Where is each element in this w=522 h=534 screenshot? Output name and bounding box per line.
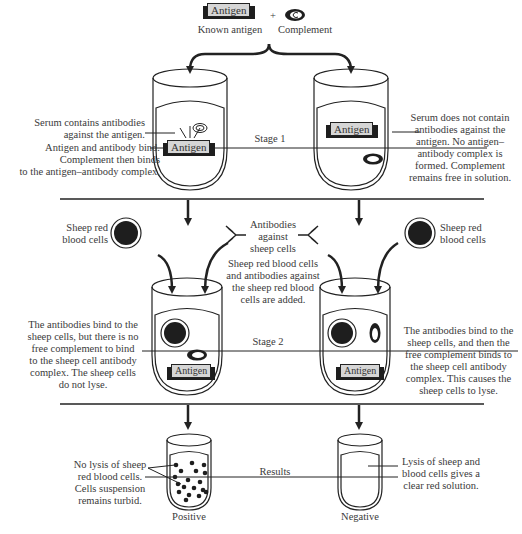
stage2-left-srbc [161, 319, 189, 347]
results-right-note: Lysis of sheep and blood cells gives a c… [400, 456, 482, 492]
stage2-left-note: The antibodies bind to the sheep cells, … [18, 319, 148, 391]
plus-sign: + [268, 10, 278, 22]
known-antigen-label: Known antigen [190, 24, 270, 36]
results-title: Results [250, 466, 300, 478]
results-left-note: No lysis of sheep red blood cells. Cells… [70, 459, 150, 507]
srbc-label-right: Sheep red blood cells [440, 222, 510, 246]
stage2-right-note: The antibodies bind to the sheep cells, … [395, 325, 522, 397]
result-tube-negative [338, 434, 382, 510]
srbc-icon-right [405, 218, 435, 248]
stage2-title: Stage 2 [243, 336, 293, 348]
positive-label: Positive [164, 511, 214, 523]
stage1-left-note-1: Serum contains antibodies against the an… [10, 117, 145, 141]
antigen-box-stage2-left: Antigen [167, 364, 215, 378]
srbc-label-left: Sheep red blood cells [50, 222, 108, 246]
stage2-right-srbc [328, 319, 356, 347]
antigen-box-top: Antigen [203, 3, 255, 17]
complement-label: Complement [270, 24, 340, 36]
antigen-box-stage1-left: Antigen [163, 140, 215, 154]
complement-icon-top [285, 9, 305, 21]
srbc-icon-left [111, 218, 141, 248]
stage2-right-complement [370, 323, 381, 343]
negative-label: Negative [335, 511, 385, 523]
antigen-box-stage1-right: Antigen [326, 122, 378, 136]
split-arrows [190, 44, 351, 70]
stage1-left-note-2: Antigen and antibody bind. Complement th… [0, 142, 160, 178]
free-complement-icon [363, 154, 383, 165]
antibodies-label: Antibodies against sheep cells [240, 219, 306, 255]
turbid-cells [173, 461, 209, 503]
antigen-box-stage2-right: Antigen [336, 364, 384, 378]
reagents-added-note: Sheep red blood cells and antibodies aga… [218, 258, 328, 306]
stage1-title: Stage 1 [245, 133, 295, 145]
antibody-complement-complex-icon [180, 124, 207, 139]
stage2-down-arrows [188, 405, 359, 426]
stage1-right-note: Serum does not contain antibodies agains… [398, 112, 522, 184]
